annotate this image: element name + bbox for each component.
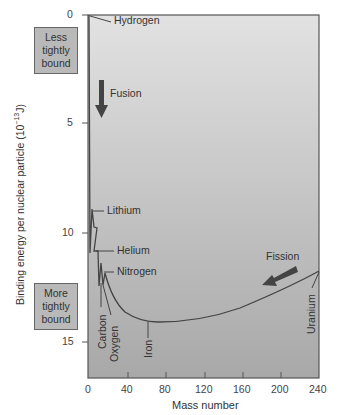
box-line: Less [35,31,77,44]
box-line: tightly [35,44,77,57]
x-tick-200: 200 [271,383,289,395]
y-tick-0: 0 [67,8,73,20]
y-axis-label-text: Binding energy per nuclear particle (10 [14,125,26,305]
y-axis-label-exponent: −13 [13,113,20,125]
y-tick-5: 5 [67,116,73,128]
x-axis-label: Mass number [172,399,239,411]
label-oxygen: Oxygen [108,326,120,362]
label-iron: Iron [142,340,154,358]
y-axis-label: Binding energy per nuclear particle (10−… [13,104,26,305]
x-tick-160: 160 [233,383,251,395]
label-fusion: Fusion [110,87,142,99]
x-tick-0: 0 [85,383,91,395]
label-fission: Fission [266,250,299,262]
label-nitrogen: Nitrogen [117,265,157,277]
x-tick-40: 40 [121,383,133,395]
box-line: More [35,287,77,300]
y-tick-10: 10 [62,226,74,238]
more-tightly-bound-box: More tightly bound [34,283,78,330]
label-uranium: Uranium [305,294,317,334]
label-carbon: Carbon [96,315,108,349]
box-line: bound [35,57,77,70]
y-axis-label-unit: J) [14,104,26,113]
plot-area [88,15,319,378]
x-tick-240: 240 [309,383,327,395]
x-tick-120: 120 [195,383,213,395]
label-lithium: Lithium [107,204,141,216]
less-tightly-bound-box: Less tightly bound [34,27,78,74]
box-line: tightly [35,300,77,313]
x-tick-80: 80 [159,383,171,395]
label-hydrogen: Hydrogen [114,14,160,26]
label-helium: Helium [117,244,150,256]
box-line: bound [35,313,77,326]
y-tick-15: 15 [62,335,74,347]
